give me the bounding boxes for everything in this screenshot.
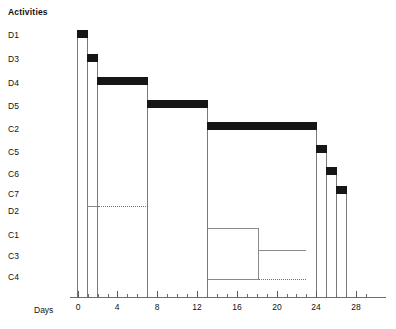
x-tick-11 <box>187 294 188 298</box>
x-tick-16 <box>237 291 238 298</box>
x-tick-28 <box>356 291 357 298</box>
activity-bar-c2 <box>207 122 317 130</box>
x-tick-1 <box>88 294 89 298</box>
x-tick-label-16: 16 <box>232 302 241 312</box>
x-tick-14 <box>217 294 218 298</box>
x-tick-9 <box>167 294 168 298</box>
activity-float-c4 <box>259 279 306 280</box>
x-tick-13 <box>207 294 208 298</box>
x-tick-23 <box>306 294 307 298</box>
x-tick-22 <box>296 294 297 298</box>
x-tick-18 <box>257 294 258 298</box>
activity-bar-d1 <box>77 30 88 38</box>
x-tick-27 <box>346 294 347 298</box>
x-tick-label-4: 4 <box>115 302 120 312</box>
x-tick-25 <box>326 294 327 298</box>
x-tick-label-12: 12 <box>192 302 201 312</box>
x-tick-4 <box>117 291 118 298</box>
x-tick-21 <box>287 294 288 298</box>
x-tick-19 <box>267 294 268 298</box>
x-tick-10 <box>177 294 178 298</box>
x-tick-15 <box>227 294 228 298</box>
step-box-c2 <box>207 122 317 298</box>
x-tick-17 <box>247 294 248 298</box>
activity-line-d2 <box>87 206 98 207</box>
x-tick-20 <box>277 291 278 298</box>
x-tick-26 <box>336 294 337 298</box>
x-tick-label-28: 28 <box>351 302 360 312</box>
gantt-chart: Activities D1 D3 D4 D5 C2 C5 C6 C7 D2 C1… <box>0 0 396 329</box>
step-box-d4 <box>97 77 148 298</box>
x-tick-label-20: 20 <box>272 302 281 312</box>
x-tick-label-8: 8 <box>155 302 160 312</box>
x-tick-label-24: 24 <box>311 302 320 312</box>
activity-line-c1-top <box>208 228 259 229</box>
x-tick-7 <box>147 294 148 298</box>
x-tick-label-0: 0 <box>76 302 81 312</box>
x-tick-3 <box>108 294 109 298</box>
x-tick-5 <box>127 294 128 298</box>
activity-bar-c5 <box>316 145 327 153</box>
activity-bar-d4 <box>97 77 148 85</box>
step-box-c7 <box>336 186 347 298</box>
plot-area: 0 4 8 12 16 20 24 28 <box>0 0 396 329</box>
x-tick-24 <box>316 291 317 298</box>
x-tick-8 <box>157 291 158 298</box>
x-tick-6 <box>137 294 138 298</box>
activity-line-c3 <box>258 250 306 251</box>
activity-line-c1-right <box>258 228 259 280</box>
x-tick-0 <box>78 291 79 298</box>
activity-line-c4 <box>208 279 259 280</box>
activity-bar-c7 <box>336 186 347 194</box>
step-box-d5 <box>147 100 208 298</box>
x-tick-29 <box>366 294 367 298</box>
activity-bar-c6 <box>326 167 337 175</box>
x-tick-2 <box>98 294 99 298</box>
activity-bar-d3 <box>87 54 98 62</box>
activity-float-d2 <box>98 206 148 207</box>
activity-bar-d5 <box>147 100 208 108</box>
x-tick-12 <box>197 291 198 298</box>
